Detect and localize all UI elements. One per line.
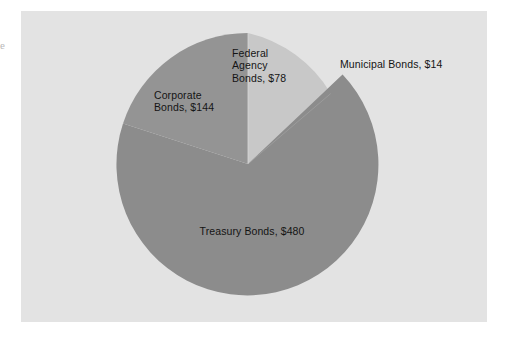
pie-chart-panel: Federal Agency Bonds, $78 Municipal Bond… [21,11,487,322]
pie-label-treasury-bonds: Treasury Bonds, $480 [172,225,332,237]
page-edge-glyph: e [0,38,9,52]
pie-label-corporate-bonds: Corporate Bonds, $144 [154,89,238,114]
pie-label-federal-agency-bonds: Federal Agency Bonds, $78 [232,47,306,84]
pie-chart-plot-area: Federal Agency Bonds, $78 Municipal Bond… [21,11,487,322]
pie-label-municipal-bonds: Municipal Bonds, $14 [340,58,487,70]
